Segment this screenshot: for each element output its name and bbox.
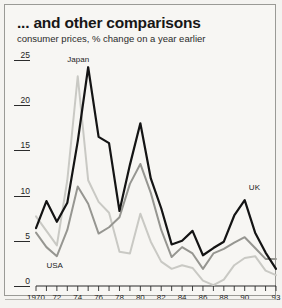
plot-area: 051015202519707274767880828486889093 Jap… <box>14 47 278 297</box>
series-label-japan: Japan <box>67 55 89 64</box>
y-axis-tick-label: 15 <box>14 140 30 151</box>
chart-subtitle: consumer prices, % change on a year earl… <box>17 33 206 44</box>
y-axis-tick-label: 25 <box>14 50 30 61</box>
chart-page: ... and other comparisons consumer price… <box>0 0 282 308</box>
y-axis-tick-label: 0 <box>14 276 30 287</box>
chart-inner: ... and other comparisons consumer price… <box>14 14 278 297</box>
y-axis-tick-label: 20 <box>14 95 30 106</box>
chart-frame: ... and other comparisons consumer price… <box>4 4 276 296</box>
series-group <box>36 67 276 285</box>
axes-group <box>36 286 276 291</box>
page-title: ... and other comparisons <box>17 14 201 32</box>
series-label-usa: USA <box>46 261 62 270</box>
bottom-rule <box>5 299 277 300</box>
y-axis-tick-label: 10 <box>14 186 30 197</box>
line-chart-svg <box>14 47 278 297</box>
y-axis-tick-label: 5 <box>14 231 30 242</box>
series-label-uk: UK <box>249 183 260 192</box>
x-axis-tick-label: 90 <box>232 293 258 302</box>
x-axis-tick-label: 93 <box>263 293 282 302</box>
